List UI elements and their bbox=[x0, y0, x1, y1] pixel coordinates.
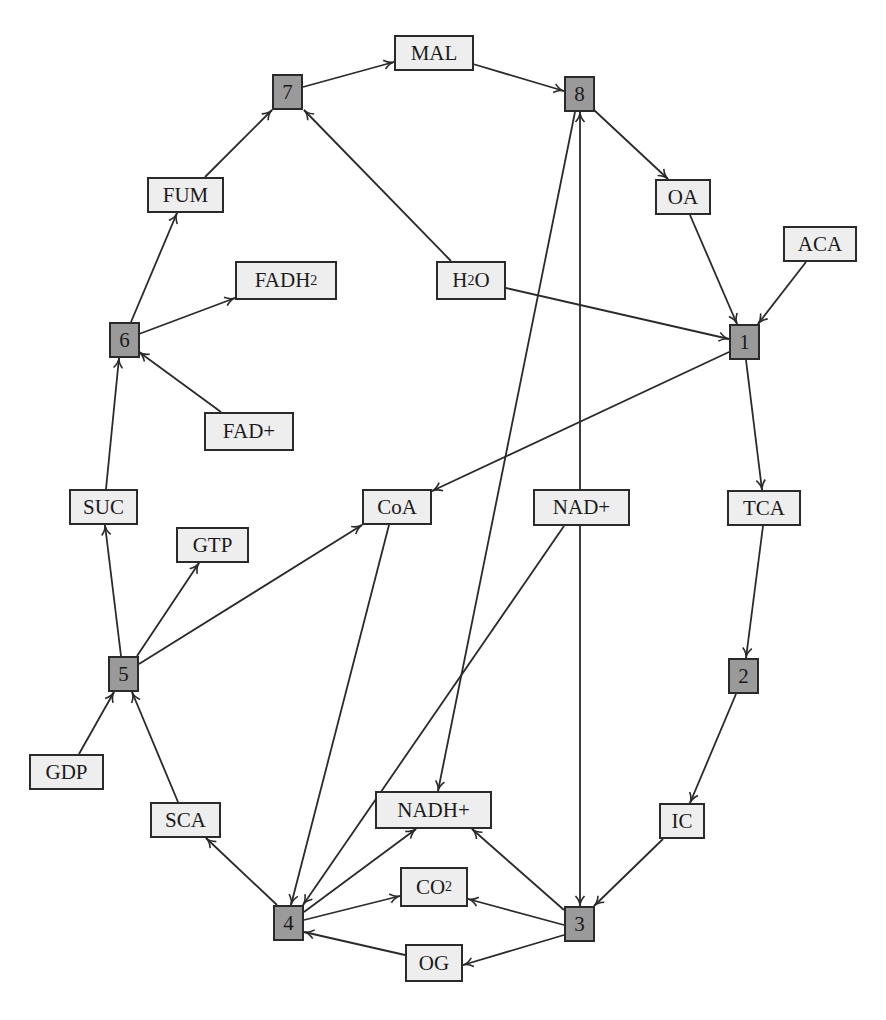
reaction-node-8: 8 bbox=[564, 76, 595, 112]
reaction-node-5: 5 bbox=[108, 656, 139, 692]
edge-SCA-to-5 bbox=[132, 692, 178, 802]
edge-1-to-TCA bbox=[746, 360, 762, 490]
metabolite-node-gtp: GTP bbox=[176, 527, 249, 563]
metabolite-node-og: OG bbox=[405, 944, 463, 982]
reaction-node-3: 3 bbox=[564, 906, 595, 942]
node-label: TCA bbox=[743, 498, 785, 519]
edge-IC-to-3 bbox=[594, 839, 663, 906]
metabolite-node-fadh2: FADH2 bbox=[235, 261, 337, 300]
edge-3-to-OG bbox=[463, 935, 564, 965]
edge-FAD+-to-6 bbox=[139, 352, 221, 412]
reaction-node-6: 6 bbox=[109, 322, 140, 358]
edge-6-to-FADH2 bbox=[139, 298, 235, 334]
node-label: 4 bbox=[283, 913, 294, 934]
node-label: 2 bbox=[738, 666, 749, 687]
edge-3-to-CO2 bbox=[468, 899, 564, 925]
node-label: FADH bbox=[255, 270, 311, 291]
node-label: 6 bbox=[119, 330, 130, 351]
metabolite-node-h2o: H2O bbox=[436, 261, 506, 300]
reaction-node-1: 1 bbox=[729, 324, 760, 360]
metabolite-node-aca: ACA bbox=[783, 226, 857, 262]
node-label: 5 bbox=[118, 664, 129, 685]
edge-GDP-to-5 bbox=[79, 692, 114, 754]
metabolite-node-nad-plus: NAD+ bbox=[533, 489, 630, 526]
metabolite-node-fad-plus: FAD+ bbox=[204, 412, 294, 451]
node-label: GTP bbox=[193, 535, 233, 556]
metabolite-node-oa: OA bbox=[655, 179, 711, 215]
reaction-node-7: 7 bbox=[272, 74, 303, 110]
node-label: 1 bbox=[739, 332, 750, 353]
edge-H2O-to-7 bbox=[304, 110, 451, 261]
edge-8-to-NADH+ bbox=[438, 112, 575, 791]
metabolite-node-nadh-plus: NADH+ bbox=[375, 791, 492, 829]
node-label-subscript: 2 bbox=[310, 274, 317, 288]
edge-OA-to-1 bbox=[690, 215, 737, 324]
node-label: OG bbox=[419, 953, 449, 974]
node-label-subscript: 2 bbox=[468, 274, 475, 288]
edge-5-to-GTP bbox=[137, 563, 199, 656]
edge-H2O-to-1 bbox=[506, 288, 729, 339]
edge-4-to-CO2 bbox=[304, 896, 400, 920]
edge-MAL-to-8 bbox=[473, 64, 564, 91]
edge-FUM-to-7 bbox=[205, 110, 272, 177]
node-label: NADH+ bbox=[397, 800, 470, 821]
edge-2-to-IC bbox=[690, 694, 736, 803]
node-label: SUC bbox=[83, 497, 124, 518]
edge-5-to-CoA bbox=[139, 525, 362, 664]
node-label: 7 bbox=[282, 82, 293, 103]
metabolite-node-co2: CO2 bbox=[400, 867, 468, 907]
node-label: CO bbox=[416, 877, 445, 898]
edge-NAD+-to-4 bbox=[303, 526, 564, 905]
node-label: 3 bbox=[574, 914, 585, 935]
node-label-subscript: 2 bbox=[445, 880, 452, 894]
node-label: H bbox=[452, 270, 467, 291]
node-label: IC bbox=[672, 811, 693, 832]
metabolite-node-fum: FUM bbox=[147, 177, 224, 213]
node-label: 8 bbox=[574, 84, 585, 105]
tca-cycle-diagram: 12345678MALOAACAFUMFADH2H2OFAD+SUCCoANAD… bbox=[0, 0, 886, 1020]
edge-7-to-MAL bbox=[303, 62, 394, 87]
node-label: FAD+ bbox=[223, 421, 275, 442]
metabolite-node-gdp: GDP bbox=[29, 754, 104, 790]
metabolite-node-sca: SCA bbox=[150, 802, 221, 838]
metabolite-node-mal: MAL bbox=[394, 35, 474, 71]
node-label: OA bbox=[668, 187, 698, 208]
node-label: CoA bbox=[377, 497, 417, 518]
edge-SUC-to-6 bbox=[106, 358, 119, 489]
node-label: FUM bbox=[163, 185, 209, 206]
edge-8-to-OA bbox=[594, 110, 668, 179]
edge-6-to-FUM bbox=[131, 213, 177, 322]
metabolite-node-tca: TCA bbox=[727, 490, 801, 526]
edge-5-to-SUC bbox=[105, 525, 121, 656]
node-label-tail: O bbox=[475, 270, 490, 291]
edge-4-to-SCA bbox=[206, 838, 277, 905]
edge-ACA-to-1 bbox=[758, 262, 806, 324]
reaction-node-4: 4 bbox=[273, 905, 304, 941]
edge-OG-to-4 bbox=[304, 932, 405, 955]
node-label: ACA bbox=[798, 234, 842, 255]
metabolite-node-coa: CoA bbox=[362, 489, 432, 525]
metabolite-node-ic: IC bbox=[659, 803, 705, 839]
metabolite-node-suc: SUC bbox=[69, 489, 138, 525]
node-label: NAD+ bbox=[553, 497, 610, 518]
node-label: SCA bbox=[165, 810, 206, 831]
edge-3-to-NADH+ bbox=[472, 829, 564, 910]
node-label: GDP bbox=[45, 762, 87, 783]
edge-TCA-to-2 bbox=[746, 526, 763, 658]
reaction-node-2: 2 bbox=[728, 658, 759, 694]
node-label: MAL bbox=[411, 43, 458, 64]
edge-CoA-to-4 bbox=[291, 525, 389, 905]
